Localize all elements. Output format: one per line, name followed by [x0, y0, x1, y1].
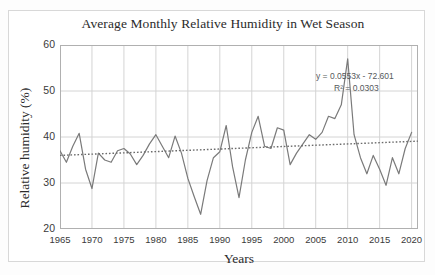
trendline [60, 141, 418, 155]
y-axis-tick-label: 40 [21, 130, 55, 142]
trendline-r-squared: R² = 0.0303 [316, 82, 428, 94]
chart-screenshot: Average Monthly Relative Humidity in Wet… [0, 0, 435, 275]
x-axis-label: Years [60, 251, 418, 267]
y-axis-tick-label: 60 [21, 38, 55, 50]
y-axis-tick-label: 30 [21, 176, 55, 188]
chart-title: Average Monthly Relative Humidity in Wet… [58, 16, 388, 32]
y-axis-tick-label: 20 [21, 222, 55, 234]
trendline-equation: y = 0.0553x - 72.601 [316, 70, 428, 82]
trendline-equation-annotation: y = 0.0553x - 72.601 R² = 0.0303 [316, 70, 428, 94]
x-axis-tick-label: 2020 [392, 234, 432, 245]
y-axis-tick-label: 50 [21, 84, 55, 96]
